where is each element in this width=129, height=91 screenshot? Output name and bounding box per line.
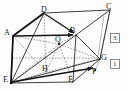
vertex-label-G: G — [101, 54, 107, 62]
geometry-figure-canvas: D C A B Q G H P E F 3 1 — [0, 0, 129, 91]
point-e-dot — [10, 82, 13, 85]
vertex-label-B: B — [70, 27, 75, 35]
measure-box-1: 1 — [110, 59, 120, 69]
vertex-label-C: C — [106, 3, 111, 11]
measure-box-3: 3 — [110, 33, 120, 43]
vertex-label-A: A — [4, 29, 10, 37]
vertex-label-H: H — [42, 65, 48, 73]
vertex-label-Q: Q — [55, 36, 61, 44]
dashed-construction-lines — [11, 13, 100, 83]
vertex-label-F: F — [68, 76, 72, 84]
vertex-label-E: E — [3, 76, 8, 84]
vertex-label-D: D — [41, 6, 47, 14]
vertex-label-P: P — [92, 68, 96, 76]
arrow-a-to-b — [14, 35, 73, 36]
figure-svg — [0, 0, 129, 91]
